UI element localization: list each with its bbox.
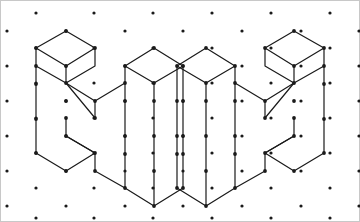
- figure-vertex-dot: [181, 186, 185, 190]
- figure-vertex-dot: [64, 134, 68, 138]
- grid-dot: [5, 99, 8, 102]
- figure-vertex-dot: [64, 64, 68, 68]
- figure-vertex-dot: [175, 186, 179, 190]
- grid-dot: [328, 116, 331, 119]
- grid-dot: [328, 151, 331, 154]
- figure-vertex-dot: [64, 29, 68, 33]
- grid-dot: [240, 99, 243, 102]
- figure-vertex-dot: [34, 46, 38, 50]
- grid-dot: [240, 204, 243, 207]
- figure-vertex-dot: [204, 99, 208, 103]
- grid-dot: [299, 134, 302, 137]
- grid-dot: [269, 116, 272, 119]
- figure-vertex-dot: [152, 169, 156, 173]
- grid-dot: [210, 11, 213, 14]
- grid-dot: [240, 29, 243, 32]
- grid-dot: [5, 64, 8, 67]
- grid-dot: [181, 204, 184, 207]
- figure-vertex-dot: [322, 117, 326, 121]
- grid-dot: [299, 204, 302, 207]
- figure-vertex-dot: [181, 64, 185, 68]
- figure-vertex-dot: [292, 169, 296, 173]
- figure-vertex-dot: [263, 151, 267, 155]
- figure-vertex-dot: [175, 152, 179, 156]
- figure-canvas: [0, 0, 360, 222]
- figure-vertex-dot: [123, 152, 127, 156]
- figure-vertex-dot: [204, 46, 208, 50]
- figure-vertex-dot: [292, 116, 296, 120]
- grid-dot: [92, 81, 95, 84]
- grid-dot: [181, 29, 184, 32]
- figure-vertex-dot: [292, 134, 296, 138]
- figure-vertex-dot: [64, 116, 68, 120]
- figure-vertex-dot: [123, 81, 127, 85]
- figure-vertex-dot: [233, 64, 237, 68]
- grid-dot: [5, 204, 8, 207]
- figure-vertex-dot: [34, 82, 38, 86]
- figure-vertex-dot: [181, 152, 185, 156]
- grid-dot: [240, 169, 243, 172]
- figure-vertex-dot: [152, 81, 156, 85]
- figure-vertex-dot: [64, 81, 68, 85]
- grid-dot: [299, 64, 302, 67]
- grid-dot: [269, 11, 272, 14]
- grid-dot: [210, 46, 213, 49]
- figure-vertex-dot: [263, 169, 267, 173]
- grid-dot: [5, 29, 8, 32]
- figure-vertex-dot: [34, 64, 38, 68]
- grid-dot: [328, 186, 331, 189]
- figure-vertex-dot: [123, 186, 127, 190]
- grid-dot: [328, 11, 331, 14]
- grid-dot: [269, 216, 272, 219]
- figure-vertex-dot: [322, 151, 326, 155]
- grid-dot: [34, 11, 37, 14]
- figure-vertex-dot: [233, 152, 237, 156]
- grid-dot: [210, 116, 213, 119]
- grid-dot: [269, 46, 272, 49]
- figure-vertex-dot: [123, 99, 127, 103]
- grid-dot: [240, 64, 243, 67]
- figure-vertex-dot: [204, 81, 208, 85]
- figure-vertex-dot: [152, 99, 156, 103]
- figure-vertex-dot: [64, 169, 68, 173]
- grid-dot: [151, 216, 154, 219]
- figure-vertex-dot: [34, 151, 38, 155]
- figure-vertex-dot: [64, 99, 68, 103]
- grid-dot: [210, 216, 213, 219]
- grid-dot: [299, 99, 302, 102]
- figure-vertex-dot: [93, 151, 97, 155]
- grid-dot: [151, 11, 154, 14]
- figure-vertex-dot: [175, 134, 179, 138]
- figure-vertex-dot: [123, 64, 127, 68]
- figure-vertex-dot: [175, 99, 179, 103]
- grid-dot: [299, 169, 302, 172]
- canvas-border: [1, 1, 360, 222]
- figure-vertex-dot: [152, 134, 156, 138]
- figure-vertex-dot: [263, 46, 267, 50]
- grid-dot: [210, 186, 213, 189]
- figure-vertex-dot: [181, 99, 185, 103]
- figure-vertex-dot: [263, 116, 267, 120]
- grid-dot: [34, 216, 37, 219]
- figure-vertex-dot: [292, 99, 296, 103]
- figure-vertex-dot: [233, 81, 237, 85]
- isometric-dot-grid-illustration: [0, 0, 360, 222]
- figure-vertex-dot: [93, 99, 97, 103]
- figure-vertex-dot: [152, 204, 156, 208]
- grid-dot: [269, 186, 272, 189]
- figure-vertex-dot: [204, 169, 208, 173]
- grid-dot: [328, 46, 331, 49]
- grid-dot: [210, 151, 213, 154]
- grid-dot: [269, 151, 272, 154]
- grid-dot: [92, 11, 95, 14]
- figure-vertex-dot: [233, 99, 237, 103]
- figure-vertex-dot: [204, 204, 208, 208]
- figure-vertex-dot: [152, 46, 156, 50]
- figure-vertex-dot: [292, 29, 296, 33]
- figure-vertex-dot: [263, 99, 267, 103]
- grid-dot: [299, 29, 302, 32]
- figure-vertex-dot: [93, 169, 97, 173]
- figure-vertex-dot: [322, 46, 326, 50]
- grid-dot: [123, 204, 126, 207]
- figure-vertex-dot: [233, 134, 237, 138]
